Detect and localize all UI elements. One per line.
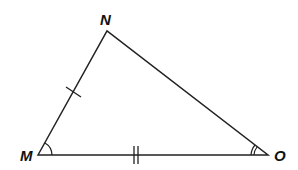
triangle-diagram: N M O <box>0 0 298 170</box>
vertex-label-o: O <box>274 147 286 164</box>
angle-arc-m <box>45 143 52 155</box>
vertex-label-n: N <box>100 11 112 28</box>
vertex-label-m: M <box>20 147 33 164</box>
tick-mark-mn <box>66 87 81 97</box>
angle-arc-o-1 <box>254 147 257 155</box>
triangle-mno <box>38 31 268 155</box>
